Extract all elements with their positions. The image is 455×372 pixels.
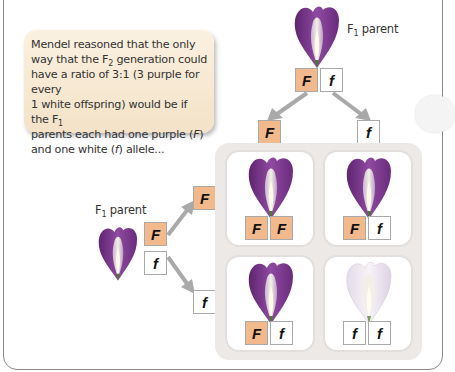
top-gamete-arrows — [255, 90, 385, 122]
top-parent-label: F1 parent — [347, 22, 398, 38]
explanation-line-5: parents each had one purple (F) — [31, 127, 208, 142]
left-parent-flower — [92, 220, 144, 284]
partial-callout-bubble — [415, 95, 455, 133]
genotype-allele: F — [270, 216, 293, 240]
top-gamete-F: F — [258, 120, 281, 144]
top-parent-allele-f: f — [320, 68, 343, 92]
offspring-flower-purple — [240, 256, 302, 326]
left-parent-label: F1 parent — [95, 203, 146, 219]
offspring-flower-purple — [240, 151, 302, 221]
offspring-flower-white — [338, 256, 400, 326]
genotype-allele: f — [270, 321, 293, 345]
explanation-line-6: and one white (f) allele... — [31, 142, 208, 157]
left-gamete-F: F — [193, 186, 216, 210]
top-parent-allele-F: F — [295, 68, 318, 92]
genotype-allele: F — [245, 216, 268, 240]
top-parent-flower — [286, 0, 348, 70]
offspring-flower-purple — [338, 151, 400, 221]
top-gamete-f: f — [357, 120, 380, 144]
genotype-allele: f — [343, 321, 366, 345]
genotype-allele: F — [343, 216, 366, 240]
genotype-allele: f — [368, 216, 391, 240]
genotype-allele: f — [368, 321, 391, 345]
genotype-allele: F — [245, 321, 268, 345]
explanation-line-1: Mendel reasoned that the only — [31, 37, 208, 52]
explanation-box: Mendel reasoned that the only way that t… — [24, 30, 214, 133]
explanation-line-2: way that the F2 generation could — [31, 52, 208, 67]
left-gamete-f: f — [193, 290, 216, 314]
explanation-line-4: 1 white offspring) would be if the F1 — [31, 97, 208, 127]
explanation-line-3: have a ratio of 3:1 (3 purple for every — [31, 67, 208, 97]
